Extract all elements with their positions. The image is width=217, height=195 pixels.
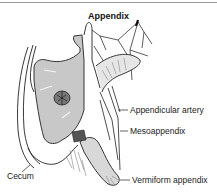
appendix-anatomy-illustration [0,0,217,195]
label-appendicular-artery: Appendicular artery [130,105,204,115]
vermiform-appendix [80,138,119,186]
label-vermiform-appendix: Vermiform appendix [132,175,208,185]
label-cecum: Cecum [7,171,34,181]
label-mesoappendix: Mesoappendix [130,126,185,136]
